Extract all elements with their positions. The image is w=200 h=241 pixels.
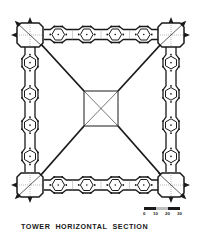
hexagon-center-dot [114,184,116,186]
scale-tick: 20 [165,211,170,216]
spike-icon [11,183,17,188]
hexagon-center-dot [114,34,116,36]
title-word: TOWER [21,222,50,231]
hexagon-center-dot [86,34,88,36]
spike-icon [28,17,33,23]
hexagon-center-dot [170,124,172,126]
spike-icon [169,197,174,203]
hexagon-center-dot [170,93,172,95]
corner-tower [11,173,43,203]
hexagon-center-dot [57,184,59,186]
scale-segment [168,207,180,210]
spike-icon [28,197,33,203]
wall-segment [44,176,158,194]
hexagon-center-dot [29,124,31,126]
hexagon-center-dot [143,184,145,186]
wall-segment [21,47,39,172]
hexagon-center-dot [29,62,31,64]
scale-tick: 0 [143,211,145,216]
hexagon-center-dot [29,156,31,158]
title-word: SECTION [112,222,148,231]
spike-icon [169,17,174,23]
corner-tower [158,173,190,203]
hexagon-center-dot [86,184,88,186]
scale-bar: 0 10 20 30 [142,207,184,219]
scale-labels: 0 10 20 30 [142,211,184,217]
scale-segment [144,207,156,210]
scale-tick: 30 [177,211,182,216]
center-core-square [84,91,118,126]
scale-tick: 10 [153,211,158,216]
spike-icon [184,183,190,188]
title-word: HORIZONTAL [55,222,107,231]
corner-tower [158,17,190,47]
scale-segment [156,207,168,210]
hexagon-center-dot [57,34,59,36]
wall-segment [44,26,158,44]
spike-icon [11,33,17,38]
corner-towers [11,17,190,203]
hexagon-center-dot [143,34,145,36]
hexagon-center-dot [170,62,172,64]
diagonal-braces [40,43,162,176]
corner-tower [11,17,43,47]
hexagon-center-dot [170,156,172,158]
tower-plan-drawing [0,0,200,215]
hexagon-center-dot [29,93,31,95]
wall-segment [162,47,180,172]
drawing-title: TOWERHORIZONTALSECTION [21,222,153,231]
spike-icon [184,33,190,38]
